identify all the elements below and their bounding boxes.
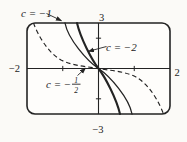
- x-max-label: 2: [174, 67, 179, 78]
- y-max-label: 3: [99, 12, 104, 23]
- figure-root: c = −1 c = −2 c = − 1 2 3 −3 −2 2: [0, 0, 187, 142]
- plot-canvas: c = −1 c = −2 c = − 1 2 3 −3 −2 2: [0, 0, 187, 142]
- x-min-label: −2: [9, 63, 20, 74]
- label-c-neg-half-prefix: c = −: [46, 78, 71, 90]
- label-c-neg-2: c = −2: [106, 41, 137, 53]
- label-c-neg-1: c = −1: [21, 7, 52, 19]
- y-min-label: −3: [92, 124, 103, 135]
- label-c-neg-half-numerator: 1: [74, 76, 78, 85]
- label-c-neg-half-denominator: 2: [74, 86, 78, 95]
